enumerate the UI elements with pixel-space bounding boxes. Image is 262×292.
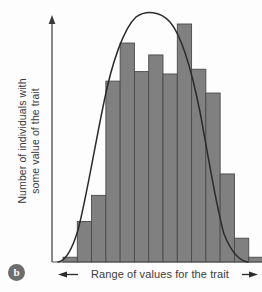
table-row bbox=[206, 93, 220, 262]
table-row bbox=[220, 174, 234, 262]
table-row bbox=[177, 24, 191, 262]
table-row bbox=[120, 43, 134, 262]
y-axis bbox=[49, 15, 56, 262]
table-row bbox=[149, 55, 163, 262]
x-axis-title: Range of values for the trait bbox=[60, 268, 260, 280]
histogram-chart bbox=[0, 0, 262, 292]
table-row bbox=[106, 81, 120, 262]
y-axis-arrowhead bbox=[49, 15, 56, 24]
table-row bbox=[92, 195, 106, 262]
table-row bbox=[163, 74, 177, 262]
panel-letter-badge: b bbox=[8, 264, 25, 281]
table-row bbox=[134, 72, 148, 262]
figure-panel: Number of individuals with some value of… bbox=[0, 0, 262, 292]
table-row bbox=[249, 257, 262, 262]
table-row bbox=[77, 222, 91, 262]
histogram-bars bbox=[63, 24, 262, 262]
table-row bbox=[192, 69, 206, 262]
table-row bbox=[234, 238, 248, 262]
